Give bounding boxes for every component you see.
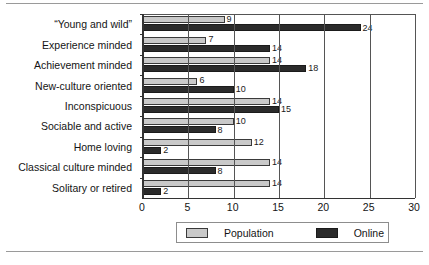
x-tick-label-10: 10 <box>227 201 239 213</box>
bar-value-label: 2 <box>163 146 168 155</box>
x-tick-label-25: 25 <box>363 201 375 213</box>
gridline-25 <box>370 14 371 198</box>
x-tick-label-0: 0 <box>139 201 145 213</box>
bar-value-label: 14 <box>272 44 282 53</box>
x-axis-tick-labels: 051015202530 <box>142 201 429 215</box>
category-label: Achievement minded <box>0 55 137 75</box>
gridline-30 <box>415 14 416 198</box>
bar-value-label: 10 <box>236 117 246 126</box>
bar-value-label: 14 <box>272 158 282 167</box>
bar-value-label: 14 <box>272 56 282 65</box>
bar-online <box>143 106 279 113</box>
gridline-10 <box>234 14 235 198</box>
gridline-20 <box>324 14 325 198</box>
legend-label-population: Population <box>224 227 274 239</box>
bar-value-label: 8 <box>218 167 223 176</box>
plot-area: 92471414186101415108122148142 <box>142 14 415 199</box>
bar-online <box>143 147 161 154</box>
bar-population <box>143 57 270 64</box>
category-label: Inconspicuous <box>0 96 137 116</box>
chart-legend: Population Online <box>176 222 389 243</box>
bar-population <box>143 180 270 187</box>
bar-value-label: 12 <box>254 138 264 147</box>
legend-item-online: Online <box>316 227 384 239</box>
bar-value-label: 18 <box>308 64 318 73</box>
bar-value-label: 9 <box>227 15 232 24</box>
x-tick-label-30: 30 <box>408 201 420 213</box>
category-label: Home loving <box>0 137 137 157</box>
bar-value-label: 2 <box>163 187 168 196</box>
bar-value-label: 7 <box>208 35 213 44</box>
legend-label-online: Online <box>354 227 384 239</box>
legend-swatch-population <box>186 228 208 238</box>
bar-chart-figure: “Young and wild”Experience mindedAchieve… <box>0 0 429 265</box>
bar-population <box>143 159 270 166</box>
gridline-5 <box>188 14 189 198</box>
category-label: New-culture oriented <box>0 75 137 95</box>
category-label: Classical culture minded <box>0 157 137 177</box>
gridline-0 <box>143 14 144 198</box>
category-label: Sociable and active <box>0 116 137 136</box>
bar-value-label: 6 <box>199 76 204 85</box>
gridline-15 <box>279 14 280 198</box>
category-label: Solitary or retired <box>0 178 137 198</box>
bar-value-label: 14 <box>272 179 282 188</box>
bar-population <box>143 98 270 105</box>
bar-value-label: 10 <box>236 85 246 94</box>
bar-online <box>143 45 270 52</box>
category-axis-labels: “Young and wild”Experience mindedAchieve… <box>0 14 137 198</box>
x-tick-label-5: 5 <box>184 201 190 213</box>
category-label: Experience minded <box>0 34 137 54</box>
bar-population <box>143 139 252 146</box>
bar-online <box>143 167 216 174</box>
bar-online <box>143 126 216 133</box>
bar-value-label: 15 <box>281 105 291 114</box>
bar-population <box>143 16 225 23</box>
legend-item-population: Population <box>186 227 274 239</box>
x-tick-label-15: 15 <box>272 201 284 213</box>
category-label: “Young and wild” <box>0 14 137 34</box>
legend-swatch-online <box>316 228 338 238</box>
bar-online <box>143 188 161 195</box>
bar-value-label: 24 <box>363 24 373 33</box>
bar-online <box>143 24 361 31</box>
bar-value-label: 8 <box>218 126 223 135</box>
bar-population <box>143 37 206 44</box>
x-tick-label-20: 20 <box>317 201 329 213</box>
bar-online <box>143 65 306 72</box>
